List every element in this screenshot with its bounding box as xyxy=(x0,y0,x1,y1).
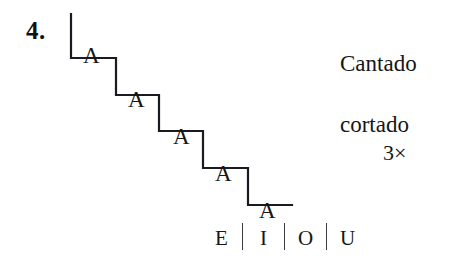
exercise-figure: 4. A A A A A Cantado cortado 3× E I O U xyxy=(0,0,460,275)
lyric-line-2: cortado xyxy=(340,110,417,141)
vowel-separator xyxy=(284,223,285,250)
staircase-path xyxy=(71,14,292,205)
vowel-o: O xyxy=(297,228,314,249)
vowel-separator xyxy=(326,223,327,250)
step-letter-1: A xyxy=(83,44,100,67)
step-letter-3: A xyxy=(173,125,190,148)
vowel-row: E I O U xyxy=(213,218,356,249)
step-letter-4: A xyxy=(215,162,232,185)
vowel-separator xyxy=(242,223,243,250)
repeat-count-marker: 3× xyxy=(383,142,406,164)
lyric-line-1: Cantado xyxy=(340,49,417,80)
vowel-e: E xyxy=(213,228,230,249)
vowel-u: U xyxy=(339,228,356,249)
vowel-i: I xyxy=(255,228,272,249)
step-letter-2: A xyxy=(128,88,145,111)
